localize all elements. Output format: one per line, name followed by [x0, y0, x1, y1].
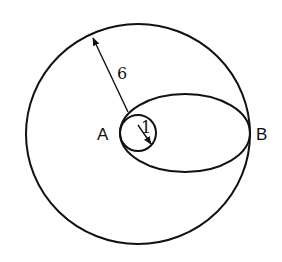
point-b-label: B	[256, 125, 267, 144]
outer-circle	[26, 24, 250, 244]
outer-radius-label: 6	[117, 64, 127, 83]
diagram-canvas: 6 1 A B	[0, 0, 282, 262]
geometry-diagram: 6 1 A B	[0, 0, 282, 262]
point-a-label: A	[97, 125, 109, 144]
ellipse	[120, 94, 250, 172]
inner-radius-label: 1	[141, 118, 151, 137]
